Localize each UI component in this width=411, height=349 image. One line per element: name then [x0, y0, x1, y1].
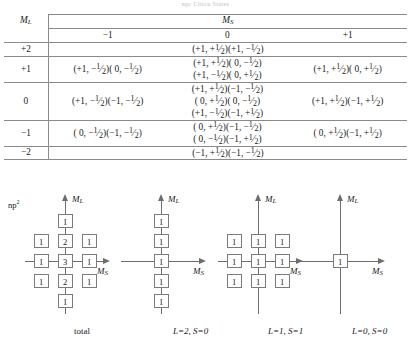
diagram-l2s0: MLMS11111L=2, S=0 [133, 186, 221, 349]
diagram-caption: L=0, S=0 [352, 326, 387, 336]
ml-axis-label: ML [168, 194, 179, 205]
ms-axis-arrow [199, 258, 206, 264]
table-cell: (−1, +1⁄2)(−1, −1⁄2) [48, 146, 407, 159]
microstate-count-cell: 1 [34, 254, 49, 268]
ms-axis-arrow [378, 258, 385, 264]
table-cell: (+1, −1⁄2)(−1, −1⁄2) [48, 82, 166, 120]
microstate-count-cell: 1 [275, 274, 290, 288]
ml-axis-arrow [62, 194, 68, 201]
table-row: 0(+1, −1⁄2)(−1, −1⁄2)(+1, +1⁄2)(−1, −1⁄2… [4, 82, 407, 120]
diagram-caption: L=1, S=1 [268, 326, 303, 336]
table-cell: (+1, +1⁄2)(−1, +1⁄2) [288, 82, 407, 120]
microstate-count-cell: 2 [58, 274, 73, 288]
microstate-count-cell: 1 [275, 234, 290, 248]
microstate-count-cell: 1 [82, 234, 97, 248]
row-label-ml: +2 [4, 43, 48, 56]
table-header-row-values: −1 0 +1 [4, 29, 407, 43]
table-header-row-ms: ML MS [4, 15, 407, 29]
table-cell: (+1, +1⁄2)(−1, −1⁄2)( 0, +1⁄2)( 0, −1⁄2)… [167, 82, 289, 120]
ml-axis-label: ML [72, 194, 83, 205]
row-label-ml: −2 [4, 146, 48, 159]
header-ms: MS [48, 15, 407, 29]
microstate-count-cell: 3 [58, 254, 73, 268]
table-row: −2(−1, +1⁄2)(−1, −1⁄2) [4, 146, 407, 159]
microstate-count-cell: 1 [82, 254, 97, 268]
microstate-count-cell: 1 [34, 234, 49, 248]
microstate-count-cell: 1 [251, 234, 266, 248]
table-row: +2(+1, +1⁄2)(+1, −1⁄2) [4, 43, 407, 56]
ml-axis-label: ML [347, 194, 358, 205]
ms-axis-label: MS [290, 266, 301, 277]
table-bottom-rule-cell [4, 160, 407, 161]
diagram-total: MLMS11211311211total [2, 186, 138, 349]
row-label-ml: −1 [4, 120, 48, 146]
diagram-l0s0: MLMS1L=0, S=0 [312, 186, 411, 349]
microstate-count-cell: 1 [251, 254, 266, 268]
table-cell: ( 0, +1⁄2)(−1, −1⁄2)( 0, −1⁄2)(−1, +1⁄2) [167, 120, 289, 146]
microstate-count-cell: 2 [58, 234, 73, 248]
table-row: +1(+1, −1⁄2)( 0, −1⁄2)(+1, +1⁄2)( 0, −1⁄… [4, 56, 407, 82]
ml-axis-arrow [158, 194, 164, 201]
microstate-count-cell: 1 [154, 274, 169, 288]
diagram-caption: L=2, S=0 [173, 326, 208, 336]
ms-axis-arrow [103, 258, 110, 264]
term-diagrams: np2 MLMS11211311211total MLMS11111L=2, S… [0, 186, 411, 349]
table-cell: ( 0, −1⁄2)(−1, −1⁄2) [48, 120, 166, 146]
table-cell: (+1, +1⁄2)( 0, −1⁄2)(+1, −1⁄2)( 0, +1⁄2) [167, 56, 289, 82]
table-cell: ( 0, +1⁄2)(−1, +1⁄2) [288, 120, 407, 146]
table-cell: (+1, +1⁄2)(+1, −1⁄2) [48, 43, 407, 56]
header-ml: ML [4, 15, 48, 29]
microstates-table: ML MS −1 0 +1 +2(+1, +1⁄2)(+1, −1⁄2)+1(+… [4, 14, 407, 160]
table-bottom-rule [4, 160, 407, 161]
microstate-count-cell: 1 [82, 274, 97, 288]
header-ms-minus1: −1 [48, 29, 166, 43]
microstate-count-cell: 1 [251, 274, 266, 288]
figure-top-caption: npc Citicu States [0, 0, 411, 9]
table-row: −1( 0, −1⁄2)(−1, −1⁄2)( 0, +1⁄2)(−1, −1⁄… [4, 120, 407, 146]
header-ms-plus1: +1 [288, 29, 407, 43]
microstate-count-cell: 1 [154, 234, 169, 248]
diagram-l1s1: MLMS111111111L=1, S=1 [216, 186, 316, 349]
header-spacer [4, 29, 48, 43]
ms-axis-label: MS [193, 266, 204, 277]
microstate-count-cell: 1 [34, 274, 49, 288]
microstate-count-cell: 1 [154, 214, 169, 228]
table-cell: (+1, −1⁄2)( 0, −1⁄2) [48, 56, 166, 82]
ms-axis-label: MS [372, 266, 383, 277]
microstate-count-cell: 1 [154, 294, 169, 308]
ml-axis-arrow [255, 194, 261, 201]
ms-axis-label: MS [97, 266, 108, 277]
microstate-count-cell: 1 [333, 254, 348, 268]
row-label-ml: +1 [4, 56, 48, 82]
microstate-count-cell: 1 [227, 254, 242, 268]
microstate-count-cell: 1 [58, 294, 73, 308]
header-ms-zero: 0 [167, 29, 289, 43]
row-label-ml: 0 [4, 82, 48, 120]
ml-axis-label: ML [265, 194, 276, 205]
diagram-caption: total [74, 326, 90, 336]
table-cell: (+1, +1⁄2)( 0, +1⁄2) [288, 56, 407, 82]
microstate-count-cell: 1 [227, 274, 242, 288]
microstate-count-cell: 1 [58, 214, 73, 228]
microstate-count-cell: 1 [275, 254, 290, 268]
ml-axis-arrow [337, 194, 343, 201]
microstate-count-cell: 1 [154, 254, 169, 268]
microstate-count-cell: 1 [227, 234, 242, 248]
